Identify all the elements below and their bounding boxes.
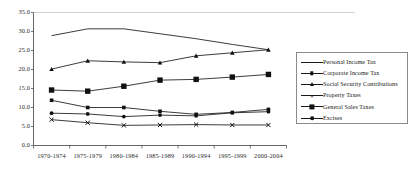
legend-item-label: Corporate Income Tax <box>323 70 379 76</box>
y-axis-tick-label: 0.0 <box>6 142 30 148</box>
legend-item[interactable]: Personal Income Tax <box>297 56 409 68</box>
legend-item[interactable]: Social Security Contributions <box>297 78 409 90</box>
legend-item[interactable]: ×Property Taxes <box>297 90 409 102</box>
y-axis-tick-label: 35.0 <box>6 9 30 15</box>
y-axis-tick-label: 20.0 <box>6 66 30 72</box>
legend-item[interactable]: Excises <box>297 112 409 124</box>
legend-marker-icon <box>301 79 323 90</box>
data-point-marker <box>122 115 126 119</box>
legend-marker-icon: × <box>301 90 323 101</box>
data-point-marker <box>194 114 198 118</box>
data-point-marker <box>122 106 126 110</box>
y-axis-tick-label: 15.0 <box>6 85 30 91</box>
x-axis-tick-label: 2000-2004 <box>244 153 292 159</box>
legend-marker-icon <box>301 101 323 112</box>
legend-item[interactable]: Corporate Income Tax <box>297 67 409 79</box>
legend-item-label: Personal Income Tax <box>323 59 376 65</box>
legend-item-label: General Sales Taxes <box>323 104 374 110</box>
legend-item-label: Social Security Contributions <box>323 81 398 87</box>
data-point-marker <box>158 113 162 117</box>
data-point-marker <box>85 88 90 93</box>
series-social-security-contributions <box>49 48 270 71</box>
data-point-marker <box>157 77 162 82</box>
legend-marker-icon <box>301 57 323 68</box>
data-point-marker <box>193 77 198 82</box>
legend-marker-icon <box>301 113 323 124</box>
y-axis-tick-label: 25.0 <box>6 47 30 53</box>
series-property-taxes <box>49 118 270 128</box>
data-point-marker <box>49 87 54 92</box>
series-line <box>52 50 269 69</box>
data-point-marker <box>86 112 90 116</box>
line-chart: 0.05.010.015.020.025.030.035.0 1970-1974… <box>0 0 414 173</box>
data-point-marker <box>50 98 54 102</box>
legend-item[interactable]: General Sales Taxes <box>297 101 409 113</box>
legend-item-label: Excises <box>323 115 342 121</box>
data-point-marker <box>230 74 235 79</box>
data-point-marker <box>266 72 271 77</box>
y-axis-tick-label: 5.0 <box>6 123 30 129</box>
data-point-marker <box>86 106 90 110</box>
data-point-marker <box>158 110 162 114</box>
data-point-marker <box>50 111 54 115</box>
y-axis-tick-label: 30.0 <box>6 28 30 34</box>
series-personal-income-tax <box>52 29 269 50</box>
series-general-sales-taxes <box>49 72 271 94</box>
legend: Personal Income TaxCorporate Income TaxS… <box>296 52 408 124</box>
data-point-marker <box>121 84 126 89</box>
data-point-marker <box>230 111 234 115</box>
legend-item-label: Property Taxes <box>323 92 361 98</box>
series-line <box>52 29 269 50</box>
legend-marker-icon <box>301 68 323 79</box>
data-point-marker <box>267 110 271 114</box>
y-axis-tick-label: 10.0 <box>6 104 30 110</box>
